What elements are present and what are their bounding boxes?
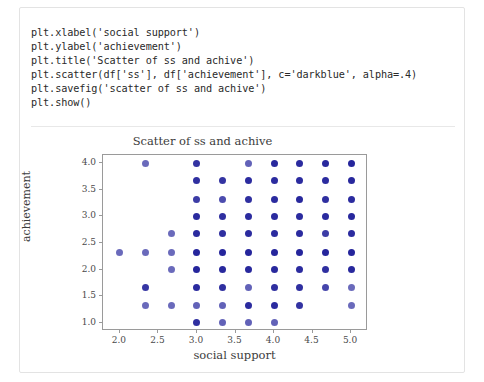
scatter-point xyxy=(219,302,226,309)
scatter-point xyxy=(322,284,329,291)
scatter-point xyxy=(322,249,329,256)
y-axis-label: achievement xyxy=(20,171,33,242)
notebook-output-card: plt.xlabel('social support')plt.ylabel('… xyxy=(19,7,465,373)
x-tick-mark xyxy=(350,330,351,333)
scatter-point xyxy=(142,249,149,256)
scatter-point xyxy=(245,160,252,167)
scatter-point xyxy=(296,302,303,309)
scatter-point xyxy=(193,196,200,203)
scatter-point xyxy=(193,249,200,256)
plot-area xyxy=(102,154,367,330)
scatter-point xyxy=(245,230,252,237)
scatter-point xyxy=(193,160,200,167)
scatter-point xyxy=(296,160,303,167)
scatter-point xyxy=(322,160,329,167)
scatter-point xyxy=(348,213,355,220)
matplotlib-figure: Scatter of ss and achive achievement 1.0… xyxy=(30,130,455,370)
scatter-point xyxy=(322,230,329,237)
scatter-point xyxy=(219,196,226,203)
code-line: plt.show() xyxy=(31,96,455,110)
scatter-point xyxy=(219,213,226,220)
scatter-point xyxy=(296,230,303,237)
scatter-point xyxy=(142,284,149,291)
scatter-point xyxy=(271,284,278,291)
scatter-point xyxy=(245,213,252,220)
chart-title: Scatter of ss and achive xyxy=(30,134,375,148)
code-line: plt.scatter(df['ss'], df['achievement'],… xyxy=(31,68,455,82)
scatter-point xyxy=(271,213,278,220)
scatter-point xyxy=(168,249,175,256)
code-line: plt.title('Scatter of ss and achive') xyxy=(31,54,455,68)
scatter-point xyxy=(245,266,252,273)
scatter-point xyxy=(219,249,226,256)
scatter-point xyxy=(296,177,303,184)
code-chart-divider xyxy=(31,126,455,127)
scatter-point xyxy=(245,177,252,184)
scatter-point xyxy=(193,284,200,291)
scatter-point xyxy=(245,302,252,309)
y-tick-label: 3.0 xyxy=(68,210,96,220)
y-tick-label: 1.5 xyxy=(68,290,96,300)
x-tick-mark xyxy=(157,330,158,333)
x-tick-label: 2.0 xyxy=(112,335,126,345)
scatter-point xyxy=(219,284,226,291)
scatter-point xyxy=(322,266,329,273)
scatter-point xyxy=(116,249,123,256)
scatter-point xyxy=(271,249,278,256)
scatter-point xyxy=(348,266,355,273)
y-tick-label: 2.5 xyxy=(68,237,96,247)
x-tick-label: 4.5 xyxy=(304,335,318,345)
x-tick-label: 4.0 xyxy=(266,335,280,345)
scatter-point xyxy=(348,177,355,184)
screenshot-root: plt.xlabel('social support')plt.ylabel('… xyxy=(0,0,484,382)
scatter-point xyxy=(168,302,175,309)
scatter-point xyxy=(348,230,355,237)
scatter-point xyxy=(296,249,303,256)
scatter-point xyxy=(271,266,278,273)
scatter-point xyxy=(296,266,303,273)
scatter-point xyxy=(271,160,278,167)
x-tick-mark xyxy=(312,330,313,333)
scatter-point xyxy=(193,230,200,237)
code-line: plt.ylabel('achievement') xyxy=(31,40,455,54)
scatter-point xyxy=(322,177,329,184)
scatter-point xyxy=(245,249,252,256)
scatter-point xyxy=(142,302,149,309)
scatter-point xyxy=(296,196,303,203)
x-tick-mark xyxy=(196,330,197,333)
code-snippet[interactable]: plt.xlabel('social support')plt.ylabel('… xyxy=(31,26,455,111)
y-tick-label: 3.5 xyxy=(68,184,96,194)
scatter-point xyxy=(271,177,278,184)
scatter-point xyxy=(168,230,175,237)
x-tick-label: 5.0 xyxy=(343,335,357,345)
x-tick-mark xyxy=(119,330,120,333)
scatter-points-layer xyxy=(103,155,366,329)
scatter-point xyxy=(348,249,355,256)
scatter-point xyxy=(348,160,355,167)
code-line: plt.xlabel('social support') xyxy=(31,26,455,40)
x-tick-mark xyxy=(273,330,274,333)
scatter-point xyxy=(193,213,200,220)
scatter-point xyxy=(296,284,303,291)
scatter-point xyxy=(193,266,200,273)
scatter-point xyxy=(348,302,355,309)
scatter-point xyxy=(348,284,355,291)
scatter-point xyxy=(322,196,329,203)
scatter-point xyxy=(142,160,149,167)
scatter-point xyxy=(322,213,329,220)
scatter-point xyxy=(271,196,278,203)
scatter-point xyxy=(193,319,200,326)
scatter-point xyxy=(245,319,252,326)
scatter-point xyxy=(193,302,200,309)
scatter-point xyxy=(219,266,226,273)
scatter-point xyxy=(271,319,278,326)
scatter-point xyxy=(245,196,252,203)
scatter-point xyxy=(271,230,278,237)
y-tick-label: 1.0 xyxy=(68,317,96,327)
scatter-point xyxy=(348,196,355,203)
x-tick-label: 3.5 xyxy=(227,335,241,345)
scatter-point xyxy=(168,266,175,273)
code-line: plt.savefig('scatter of ss and achive') xyxy=(31,82,455,96)
scatter-point xyxy=(296,213,303,220)
x-tick-label: 3.0 xyxy=(189,335,203,345)
